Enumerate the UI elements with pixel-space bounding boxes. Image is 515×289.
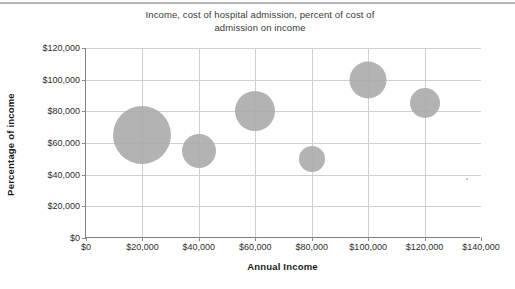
data-bubble[interactable] xyxy=(182,134,216,168)
x-gridline xyxy=(255,48,256,238)
x-axis-tick xyxy=(255,237,256,241)
x-axis-tick-label: $120,000 xyxy=(406,242,444,252)
y-gridline xyxy=(86,175,481,176)
chart-title-line-2: admission on income xyxy=(60,22,460,35)
chart-title: Income, cost of hospital admission, perc… xyxy=(60,9,460,34)
y-axis-tick-label: $80,000 xyxy=(47,106,80,116)
y-axis-tick xyxy=(82,80,86,81)
bubble-chart-screenshot: Income, cost of hospital admission, perc… xyxy=(0,0,515,289)
y-axis-title: Percentage of income xyxy=(2,70,18,220)
data-bubble[interactable] xyxy=(410,88,440,118)
x-axis-tick xyxy=(368,237,369,241)
y-axis-tick-label: $60,000 xyxy=(47,138,80,148)
x-axis-tick xyxy=(199,237,200,241)
y-axis-tick xyxy=(82,111,86,112)
data-bubble[interactable] xyxy=(235,91,275,131)
x-axis-tick xyxy=(312,237,313,241)
x-axis-tick xyxy=(86,237,87,241)
x-axis-tick-label: $40,000 xyxy=(183,242,216,252)
data-bubble[interactable] xyxy=(350,61,387,98)
x-gridline xyxy=(312,48,313,238)
x-axis-tick xyxy=(425,237,426,241)
top-divider-rule xyxy=(0,2,515,4)
y-axis-tick-label: $120,000 xyxy=(42,43,80,53)
x-axis-tick-label: $20,000 xyxy=(126,242,159,252)
x-axis-tick-label: $140,000 xyxy=(462,242,500,252)
x-axis-tick xyxy=(142,237,143,241)
x-gridline xyxy=(425,48,426,238)
y-gridline xyxy=(86,80,481,81)
y-axis-tick-label: $100,000 xyxy=(42,75,80,85)
y-axis-tick xyxy=(82,175,86,176)
plot-area: $0$20,000$40,000$60,000$80,000$100,000$1… xyxy=(85,48,480,238)
x-axis-tick-label: $80,000 xyxy=(295,242,328,252)
y-axis-tick-label: $40,000 xyxy=(47,170,80,180)
y-gridline xyxy=(86,206,481,207)
y-axis-tick xyxy=(82,206,86,207)
data-bubble[interactable] xyxy=(466,178,468,180)
x-axis-tick-label: $60,000 xyxy=(239,242,272,252)
y-axis-tick xyxy=(82,143,86,144)
x-axis-tick-label: $0 xyxy=(81,242,91,252)
y-axis-tick xyxy=(82,48,86,49)
y-gridline xyxy=(86,48,481,49)
y-axis-title-text: Percentage of income xyxy=(5,85,16,205)
x-axis-title: Annual Income xyxy=(85,261,480,272)
data-bubble[interactable] xyxy=(299,146,325,172)
y-axis-tick-label: $20,000 xyxy=(47,201,80,211)
x-axis-tick-label: $100,000 xyxy=(349,242,387,252)
data-bubble[interactable] xyxy=(113,106,171,164)
chart-title-line-1: Income, cost of hospital admission, perc… xyxy=(60,9,460,22)
x-axis-tick xyxy=(481,237,482,241)
y-axis-tick-label: $0 xyxy=(70,233,80,243)
